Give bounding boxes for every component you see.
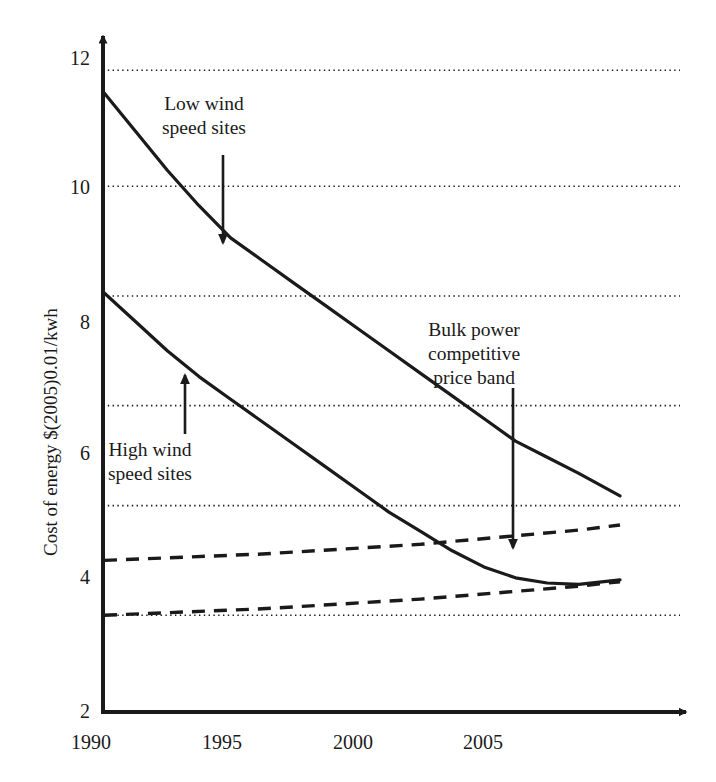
price-band-lower-dashed [104,582,620,616]
chart-figure: Cost of energy $(2005)0.01/kwh 2 4 6 8 1… [0,0,716,782]
plot-area [0,0,716,782]
price-band-upper-dashed [104,525,620,560]
low-wind-line [104,93,620,496]
gridlines [103,70,680,615]
high-wind-line [104,293,620,585]
series-low-wind-speed-sites [104,89,598,522]
